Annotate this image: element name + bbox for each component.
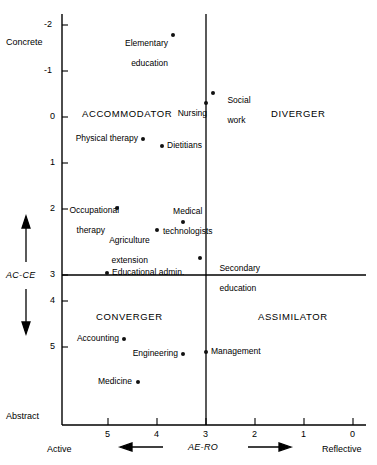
data-label-line1: Occupational — [69, 205, 119, 215]
data-label-line1: Agriculture — [109, 235, 150, 245]
data-point-social-work[interactable] — [211, 91, 215, 95]
data-label-line1: Elementary — [125, 38, 168, 48]
y-tick-label--1: -1 — [44, 66, 52, 75]
data-label-physical-therapy: Physical therapy — [64, 133, 138, 143]
data-label-line1: Medical — [173, 206, 202, 216]
data-label-line2: technologists — [163, 226, 213, 236]
y-tick-label-0: 0 — [50, 112, 55, 121]
data-label-line1: Social — [227, 95, 250, 105]
data-label-medical-technologists: Medical technologists — [144, 196, 222, 246]
data-point-physical-therapy[interactable] — [141, 137, 145, 141]
data-point-medicine[interactable] — [136, 380, 140, 384]
data-label-line2: extension — [112, 255, 148, 265]
data-label-engineering: Engineering — [116, 348, 178, 358]
data-point-dietitians[interactable] — [160, 144, 164, 148]
axis-pole-label-concrete: Concrete — [6, 37, 43, 47]
data-point-educational-admin[interactable] — [105, 271, 109, 275]
x-axis-ticks — [108, 418, 353, 425]
data-label-line2: work — [227, 115, 245, 125]
x-tick-label-1: 1 — [301, 430, 306, 439]
data-label-nursing: Nursing — [159, 108, 207, 118]
data-label-educational-admin: Educational admin. — [112, 267, 206, 277]
data-label-dietitians: Dietitians — [167, 140, 227, 150]
y-tick-label-5: 5 — [50, 342, 55, 351]
x-tick-label-5: 5 — [105, 430, 110, 439]
data-label-social-work: Social work — [218, 85, 278, 135]
y-tick-label-1: 1 — [50, 158, 55, 167]
x-axis-name-ae-ro: AE-RO — [188, 442, 218, 452]
data-point-agriculture-extension[interactable] — [155, 228, 159, 232]
data-point-elementary-education[interactable] — [171, 33, 175, 37]
x-tick-label-3: 3 — [203, 430, 208, 439]
data-label-secondary-education: Secondary education — [210, 253, 276, 303]
data-label-management: Management — [211, 346, 281, 356]
data-label-medicine: Medicine — [76, 376, 132, 386]
x-tick-label-4: 4 — [154, 430, 159, 439]
x-tick-label-0: 0 — [350, 430, 355, 439]
data-label-accounting: Accounting — [57, 333, 119, 343]
data-point-accounting[interactable] — [122, 337, 126, 341]
y-axis-ticks — [62, 25, 68, 347]
quadrant-label-diverger: DIVERGER — [271, 108, 325, 119]
quadrant-label-converger: CONVERGER — [96, 311, 163, 322]
y-tick-label--2: -2 — [44, 20, 52, 29]
data-label-line2: education — [219, 283, 256, 293]
data-label-line2: education — [131, 58, 168, 68]
x-tick-label-2: 2 — [252, 430, 257, 439]
data-point-management[interactable] — [204, 350, 208, 354]
y-tick-label-3: 3 — [50, 270, 55, 279]
axis-pole-label-abstract: Abstract — [6, 411, 39, 421]
y-axis-name-ac-ce: AC-CE — [6, 270, 36, 280]
quadrant-label-assimilator: ASSIMILATOR — [258, 311, 328, 322]
kolb-learning-style-scatter-chart: -2 -1 0 1 2 3 4 5 5 4 3 2 1 0 Concrete A… — [0, 0, 377, 465]
data-point-engineering[interactable] — [181, 352, 185, 356]
data-point-secondary-education[interactable] — [198, 256, 202, 260]
data-label-line1: Secondary — [219, 263, 260, 273]
axis-pole-label-active: Active — [47, 444, 72, 454]
data-label-elementary-education: Elementary education — [85, 28, 168, 78]
y-tick-label-4: 4 — [50, 296, 55, 305]
y-tick-label-2: 2 — [50, 204, 55, 213]
data-point-nursing[interactable] — [204, 101, 208, 105]
axis-pole-label-reflective: Reflective — [322, 444, 362, 454]
